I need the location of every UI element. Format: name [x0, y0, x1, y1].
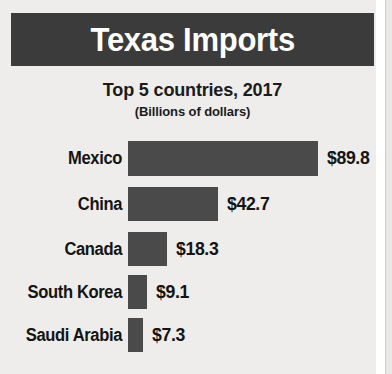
bar-rows-container: Mexico$89.8China$42.7Canada$18.3South Ko…: [0, 136, 376, 368]
bar-row: Mexico$89.8: [0, 136, 376, 180]
chart-units-label: (Billions of dollars): [11, 104, 374, 119]
bar-row: Saudi Arabia$7.3: [0, 313, 376, 357]
chart-title: Texas Imports: [90, 21, 294, 59]
chart-title-bar: Texas Imports: [11, 13, 374, 66]
bar-category-label: South Korea: [10, 282, 122, 303]
column-rule-line: [385, 0, 386, 374]
bar-category-label: Mexico: [10, 148, 122, 169]
chart-subtitle: Top 5 countries, 2017: [20, 79, 365, 101]
bar-value-label: $18.3: [176, 238, 218, 260]
bar-value-label: $42.7: [227, 193, 269, 215]
bar-value-label: $9.1: [156, 281, 189, 303]
bar: [128, 318, 143, 352]
bar-category-label: Saudi Arabia: [10, 325, 122, 346]
bar: [128, 232, 167, 266]
bar-category-label: Canada: [10, 239, 122, 260]
chart-figure: Texas Imports Top 5 countries, 2017 (Bil…: [0, 0, 392, 374]
bar-category-label: China: [10, 194, 122, 215]
bar-value-label: $89.8: [327, 147, 369, 169]
bar: [128, 187, 218, 221]
bar: [128, 141, 318, 176]
column-gutter: [386, 0, 392, 374]
bar: [128, 275, 147, 309]
bar-row: China$42.7: [0, 182, 376, 226]
bar-value-label: $7.3: [152, 324, 185, 346]
bar-row: South Korea$9.1: [0, 270, 376, 314]
bar-row: Canada$18.3: [0, 227, 376, 271]
